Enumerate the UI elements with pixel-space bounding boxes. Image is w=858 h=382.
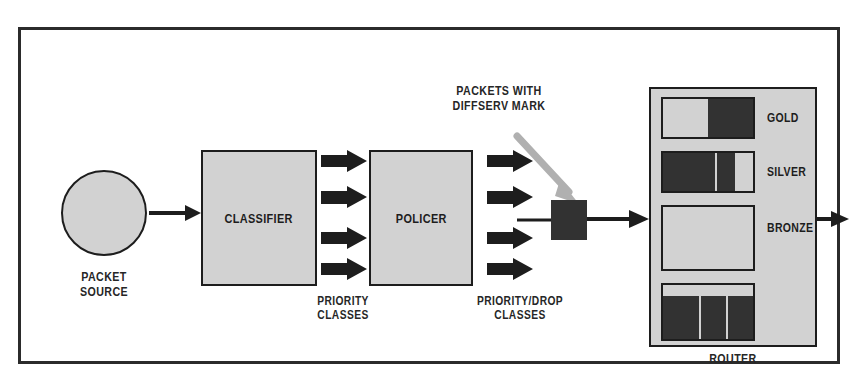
diffserv-callout-label: PACKETS WITH DIFFSERV MARK [425,84,573,113]
router-queue-gold [661,97,755,139]
queue-fill-overflow [663,296,753,339]
router-queue-label-gold: GOLD [767,111,805,125]
policer-label: POLICER [371,211,471,226]
queue-divider-silver [715,153,717,191]
arrow-source-to-classifier [149,202,203,224]
queue-fill-gold [708,99,753,137]
queue-fill-silver [663,153,735,191]
diagram-frame: PACKET SOURCE CLASSIFIER POLICER PRIORIT… [18,27,840,364]
router-queue-bronze [661,205,755,271]
diagram-canvas: PACKET SOURCE CLASSIFIER POLICER PRIORIT… [0,0,858,382]
priority-drop-classes-label: PRIORITY/DROP CLASSES [459,294,582,322]
packet-source-label: PACKET SOURCE [55,270,153,299]
diffserv-marked-packet [551,200,587,240]
arrow-router-egress [817,208,851,230]
queue-divider-overflow-b [726,285,728,339]
packet-source-node [61,170,147,256]
router-queue-label-bronze: BRONZE [767,221,822,235]
queue-divider-overflow-a [699,285,701,339]
policer-node: POLICER [369,150,473,286]
arrow-group-classifier-to-policer [321,150,371,286]
router-queue-label-silver: SILVER [767,165,814,179]
router-node: GOLD SILVER BRONZE [649,87,817,347]
classifier-label: CLASSIFIER [203,211,315,226]
router-label: ROUTER [693,352,773,367]
router-queue-silver [661,151,755,193]
classifier-node: CLASSIFIER [201,150,317,286]
diffserv-callout-arrow-icon [511,130,591,208]
priority-classes-label: PRIORITY CLASSES [294,294,392,322]
arrow-mark-to-router [587,208,651,230]
router-queue-overflow [661,283,755,341]
